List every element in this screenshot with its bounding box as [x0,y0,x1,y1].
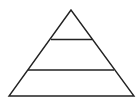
pyramid-diagram [0,0,140,102]
pyramid-outline [9,10,134,96]
pyramid-diagram-canvas [0,0,140,102]
